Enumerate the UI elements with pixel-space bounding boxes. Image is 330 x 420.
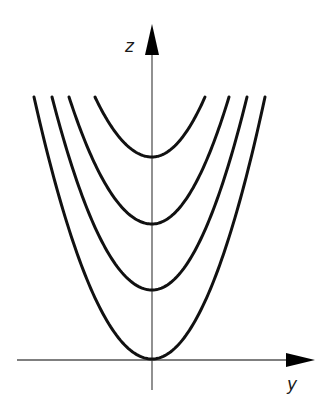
parabola-1 <box>34 97 265 359</box>
parabola-diagram: z y <box>0 0 330 420</box>
z-axis-label: z <box>124 36 135 56</box>
z-axis-arrowhead <box>145 24 159 55</box>
y-axis-label: y <box>286 374 298 394</box>
parabola-3 <box>69 97 229 224</box>
parabola-4 <box>95 97 205 157</box>
y-axis-arrowhead <box>286 353 315 367</box>
